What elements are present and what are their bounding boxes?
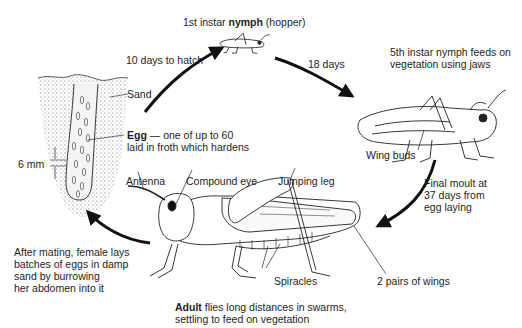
label-wings: 2 pairs of wings	[377, 275, 450, 287]
label-egg-laying: After mating, female lays batches of egg…	[14, 246, 130, 294]
label-spiracles: Spiracles	[274, 275, 317, 287]
label-egg: Egg — one of up to 60 laid in froth whic…	[127, 129, 249, 153]
label-final-moult: Final moult at 37 days from egg laying	[424, 177, 487, 213]
label-nymph1: 1st instar nymph (hopper)	[183, 16, 306, 28]
label-wing-buds: Wing buds	[366, 149, 416, 161]
label-adult: Adult flies long distances in swarms, se…	[175, 301, 347, 325]
label-compound-eye: Compound eye	[186, 175, 257, 187]
nymph1-illustration	[220, 33, 270, 53]
label-hatch-duration: 10 days to hatch	[126, 54, 203, 66]
arrow-adult-to-egg	[88, 212, 150, 243]
label-antenna: Antenna	[126, 175, 165, 187]
label-18-days: 18 days	[308, 58, 345, 70]
label-nymph5: 5th instar nymph feeds on vegetation usi…	[390, 46, 511, 70]
egg-pod-illustration	[38, 75, 128, 217]
label-sand: Sand	[127, 88, 152, 100]
label-jumping-leg: Jumping leg	[278, 175, 335, 187]
label-egg-size: 6 mm	[18, 158, 44, 170]
